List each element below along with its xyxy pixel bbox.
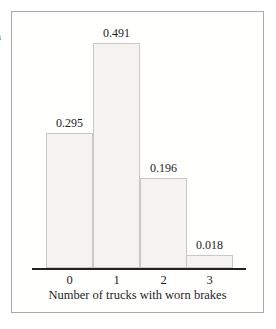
x-tick-label: 0 xyxy=(50,273,90,287)
bar-value-label: 0.491 xyxy=(92,26,142,40)
bar xyxy=(46,133,93,268)
bar xyxy=(140,178,187,268)
x-tick-label: 2 xyxy=(144,273,184,287)
bar-value-label: 0.018 xyxy=(185,238,235,252)
clipped-text-fragment: a xyxy=(0,31,1,42)
plot-area: Number of trucks with worn brakes 0.2950… xyxy=(12,12,263,312)
chart-panel: Number of trucks with worn brakes 0.2950… xyxy=(11,11,264,313)
bar xyxy=(93,43,140,268)
bar-value-label: 0.295 xyxy=(45,116,95,130)
x-tick-label: 1 xyxy=(97,273,137,287)
bar-value-label: 0.196 xyxy=(139,161,189,175)
bar xyxy=(186,255,233,268)
x-tick-label: 3 xyxy=(190,273,230,287)
x-axis-line xyxy=(32,268,246,270)
figure-canvas: a Number of trucks with worn brakes 0.29… xyxy=(0,0,276,329)
x-axis-title: Number of trucks with worn brakes xyxy=(12,288,263,303)
